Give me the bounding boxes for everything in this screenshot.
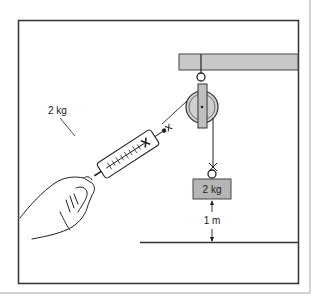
rope-to-scale [162,101,187,124]
hanger-ring [197,73,205,81]
height-arrowhead-up [210,200,214,205]
pulley-diagram: 2 kg 1 m 2 kg [0,0,320,300]
pulley-axle [201,106,204,109]
weight-ring [208,170,216,178]
scale-reading-label: 2 kg [48,105,67,116]
ceiling-beam [179,54,298,70]
height-arrowhead-down [210,237,214,242]
height-label: 1 m [204,215,221,226]
spring-scale [90,119,176,184]
scale-reading-leader [60,118,75,136]
hand [20,177,94,239]
mass-label: 2 kg [203,184,222,195]
